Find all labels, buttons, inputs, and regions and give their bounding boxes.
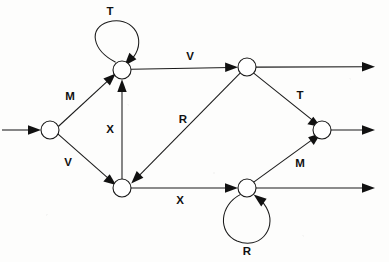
edge-top-right-to-bottom-left <box>131 73 240 183</box>
edge-bottom-left-to-top-left <box>117 79 126 179</box>
top-left-node[interactable] <box>113 61 131 79</box>
state-diagram-canvas: T M V X V R T X M R <box>0 0 389 262</box>
label-t-upper-right: T <box>296 89 303 101</box>
bottom-left-node[interactable] <box>113 179 131 197</box>
label-x-bottom: X <box>176 194 184 206</box>
self-loop-top-left <box>95 21 139 66</box>
label-r-bottom-loop: R <box>243 245 252 257</box>
mid-right-node[interactable] <box>313 121 331 139</box>
self-loop-bottom-right <box>223 195 270 244</box>
bottom-right-node[interactable] <box>238 179 256 197</box>
left-node[interactable] <box>41 121 59 139</box>
edge-top-right-to-mid-right <box>254 73 321 127</box>
label-m-upper-left: M <box>65 90 75 102</box>
label-x-vertical: X <box>106 123 114 135</box>
label-t-top-loop: T <box>106 5 113 17</box>
edge-bottom-left-to-bottom-right <box>131 183 238 193</box>
top-right-node[interactable] <box>238 58 256 76</box>
label-v-lower-left: V <box>64 156 72 168</box>
exit-arrow-bottom-right <box>256 183 375 193</box>
label-r-diagonal: R <box>179 113 188 125</box>
edge-bottom-right-to-mid-right <box>254 133 321 182</box>
edge-top-left-to-top-right <box>131 63 238 73</box>
exit-arrow-top-right <box>256 62 375 72</box>
label-v-top: V <box>186 50 194 62</box>
state-diagram-svg: T M V X V R T X M R <box>0 0 389 262</box>
label-m-lower-right: M <box>295 157 305 169</box>
exit-arrow-mid-right <box>331 125 375 135</box>
entry-arrow <box>2 125 41 135</box>
